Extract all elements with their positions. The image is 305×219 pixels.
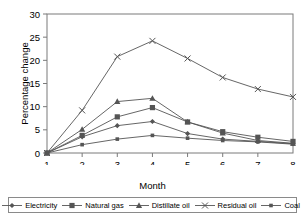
y-tick-label: 15 xyxy=(29,78,40,89)
data-point-marker xyxy=(221,139,225,143)
data-point-marker xyxy=(150,105,155,110)
legend-marker-icon xyxy=(194,201,216,210)
data-point-marker xyxy=(291,142,295,146)
x-axis-title: Month xyxy=(0,180,305,191)
legend-marker-icon xyxy=(61,201,83,210)
data-point-marker xyxy=(10,202,15,207)
data-point-marker xyxy=(149,38,155,44)
data-point-marker xyxy=(45,151,49,155)
legend-marker-icon xyxy=(1,201,23,210)
data-point-marker xyxy=(114,54,120,60)
y-axis-title: Percentage change xyxy=(19,19,30,149)
data-point-marker xyxy=(115,123,120,128)
data-point-marker xyxy=(151,134,155,138)
y-tick-label: 0 xyxy=(35,148,40,159)
data-point-marker xyxy=(80,143,84,147)
data-point-marker xyxy=(149,95,155,101)
legend-label: Distillate oil xyxy=(152,201,194,210)
chart-legend: ElectricityNatural gasDistillate oilResi… xyxy=(8,197,297,213)
data-point-marker xyxy=(255,86,261,92)
chart-figure: 05101520253012345678 Percentage change M… xyxy=(0,0,305,219)
data-point-marker xyxy=(186,136,190,140)
x-tick-label: 1 xyxy=(44,159,49,165)
x-tick-label: 4 xyxy=(150,159,155,165)
y-tick-label: 20 xyxy=(29,55,40,66)
legend-entry-coal[interactable]: Coal xyxy=(260,201,303,210)
legend-label: Residual oil xyxy=(218,201,261,210)
x-tick-label: 3 xyxy=(115,159,120,165)
data-point-marker xyxy=(80,133,85,138)
legend-entry-distillate-oil[interactable]: Distillate oil xyxy=(128,201,194,210)
x-tick-label: 2 xyxy=(79,159,84,165)
y-tick-label: 5 xyxy=(35,124,40,135)
x-tick-label: 6 xyxy=(220,159,225,165)
data-point-marker xyxy=(270,203,274,207)
y-tick-label: 10 xyxy=(29,101,40,112)
legend-label: Electricity xyxy=(25,201,61,210)
data-point-marker xyxy=(79,107,85,113)
data-point-marker xyxy=(185,131,190,136)
data-point-marker xyxy=(150,119,155,124)
data-point-marker xyxy=(115,114,120,119)
plot-area: 05101520253012345678 Percentage change xyxy=(0,0,305,165)
data-point-marker xyxy=(185,55,191,61)
y-tick-label: 25 xyxy=(29,32,40,43)
legend-entry-residual-oil[interactable]: Residual oil xyxy=(194,201,261,210)
line-chart-svg: 05101520253012345678 xyxy=(0,0,305,165)
legend-marker-icon xyxy=(128,201,150,210)
data-point-marker xyxy=(70,202,75,207)
legend-marker-icon xyxy=(260,201,282,210)
x-tick-label: 5 xyxy=(185,159,190,165)
y-tick-label: 30 xyxy=(29,9,40,20)
data-point-marker xyxy=(220,74,226,80)
legend-entry-natural-gas[interactable]: Natural gas xyxy=(61,201,127,210)
x-tick-label: 8 xyxy=(290,159,295,165)
x-tick-label: 7 xyxy=(255,159,260,165)
data-point-marker xyxy=(79,126,85,132)
data-point-marker xyxy=(256,140,260,144)
legend-entry-electricity[interactable]: Electricity xyxy=(1,201,61,210)
plot-frame xyxy=(47,14,293,153)
legend-label: Natural gas xyxy=(85,201,127,210)
legend-label: Coal xyxy=(284,201,303,210)
data-point-marker xyxy=(115,137,119,141)
